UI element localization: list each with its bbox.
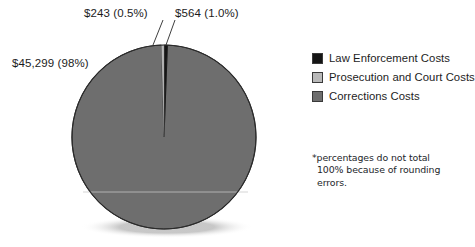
callout-law-enforcement: $564 (1.0%): [175, 7, 239, 19]
legend-swatch-icon: [312, 72, 323, 83]
legend-item-label: Prosecution and Court Costs: [329, 71, 475, 83]
legend-item-corrections: Corrections Costs: [312, 87, 462, 105]
chart-legend: Law Enforcement Costs Prosecution and Co…: [312, 49, 462, 106]
footnote-line-1: *percentages do not total: [312, 152, 430, 163]
callout-prosecution: $243 (0.5%): [84, 7, 148, 19]
pie-svg: [72, 45, 256, 229]
callout-corrections: $45,299 (98%): [12, 57, 89, 69]
pie-chart: [72, 45, 256, 229]
legend-item-prosecution: Prosecution and Court Costs: [312, 68, 462, 86]
legend-item-label: Law Enforcement Costs: [329, 52, 450, 64]
legend-item-law-enforcement: Law Enforcement Costs: [312, 49, 462, 67]
footnote-line-2: 100% because of rounding errors.: [312, 164, 464, 189]
legend-swatch-icon: [312, 53, 323, 64]
legend-swatch-icon: [312, 91, 323, 102]
chart-footnote: *percentages do not total 100% because o…: [312, 152, 464, 189]
legend-item-label: Corrections Costs: [329, 90, 420, 102]
